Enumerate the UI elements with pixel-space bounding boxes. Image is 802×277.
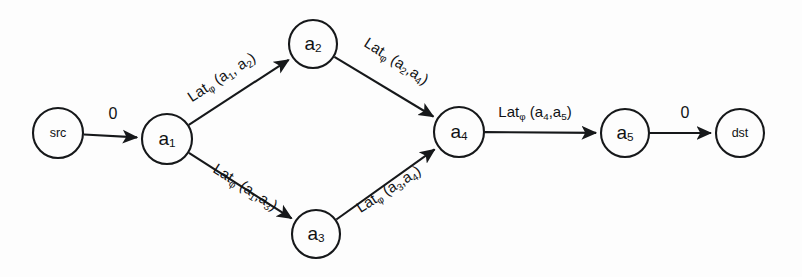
edge-src-to-a1	[84, 134, 137, 137]
edge-label-e-a1-a3: Latφ (a1,a3)	[210, 160, 282, 216]
node-a4[interactable]: a4	[434, 107, 484, 157]
edge-label-e-a3-a4: Latφ (a3,a4)	[353, 162, 425, 218]
edge-a4-to-a5	[485, 132, 596, 133]
node-label-src: src	[50, 126, 67, 140]
edge-label-e-a4-a5: Latφ (a4,a5)	[498, 103, 571, 122]
node-dst[interactable]: dst	[716, 109, 764, 157]
edge-label-e-src-a1: 0	[109, 105, 118, 122]
latency-graph-diagram: srca1a2a3a4a5dst 0Latφ (a1, a2)Latφ (a2,…	[0, 0, 802, 277]
node-src[interactable]: src	[33, 108, 83, 158]
node-label-dst: dst	[732, 126, 749, 140]
edge-label-e-a5-dst: 0	[681, 104, 690, 121]
node-a3[interactable]: a3	[292, 210, 340, 258]
node-a2[interactable]: a2	[289, 20, 337, 68]
node-a5[interactable]: a5	[601, 109, 649, 157]
edge-label-e-a1-a2: Latφ (a1, a2)	[184, 48, 259, 106]
node-a1[interactable]: a1	[142, 114, 192, 164]
edge-label-e-a2-a4: Latφ (a2,a4)	[361, 34, 433, 90]
graph-canvas: srca1a2a3a4a5dst 0Latφ (a1, a2)Latφ (a2,…	[0, 0, 802, 277]
